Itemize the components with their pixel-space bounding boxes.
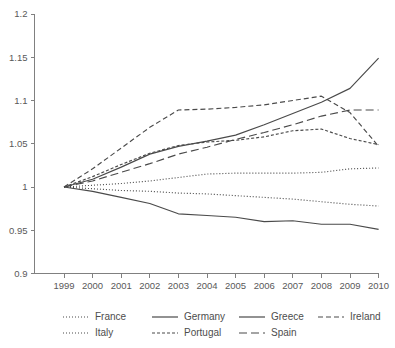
- y-tick-label: 0.9: [14, 268, 27, 279]
- series-line-spain: [64, 110, 379, 187]
- series-line-greece: [64, 58, 379, 187]
- legend-label-france: France: [95, 311, 127, 322]
- chart-legend: FranceGermanyGreeceIrelandItalyPortugalS…: [63, 311, 381, 338]
- x-tick-label: 2007: [282, 280, 303, 291]
- chart-svg: 0.90.9511.051.11.151.2 19992000200120022…: [0, 0, 395, 348]
- legend-label-ireland: Ireland: [350, 311, 381, 322]
- x-tick-label: 2001: [111, 280, 132, 291]
- x-tick-label: 2004: [196, 280, 217, 291]
- y-tick-label: 1.05: [9, 138, 28, 149]
- x-tick-label: 2009: [339, 280, 360, 291]
- y-tick-label: 1: [22, 181, 27, 192]
- x-tick-label: 2003: [168, 280, 189, 291]
- x-tick-label: 1999: [53, 280, 74, 291]
- y-tick-label: 1.2: [14, 8, 27, 19]
- legend-label-italy: Italy: [95, 327, 113, 338]
- series-line-germany: [64, 187, 379, 229]
- x-tick-label: 2010: [368, 280, 389, 291]
- line-chart: 0.90.9511.051.11.151.2 19992000200120022…: [0, 0, 395, 348]
- y-tick-label: 1.1: [14, 95, 27, 106]
- x-tick-label: 2000: [82, 280, 103, 291]
- y-tick-label: 0.95: [9, 225, 28, 236]
- x-tick-label: 2006: [254, 280, 275, 291]
- series-line-ireland: [64, 96, 379, 187]
- x-tick-label: 2005: [225, 280, 246, 291]
- legend-label-germany: Germany: [184, 311, 225, 322]
- legend-label-spain: Spain: [271, 327, 297, 338]
- y-axis: 0.90.9511.051.11.151.2: [9, 8, 35, 279]
- series-lines: [64, 58, 379, 229]
- y-tick-label: 1.15: [9, 52, 28, 63]
- x-tick-label: 2002: [139, 280, 160, 291]
- legend-label-portugal: Portugal: [184, 327, 221, 338]
- series-line-italy: [64, 187, 379, 206]
- x-axis: 1999200020012002200320042005200620072008…: [35, 274, 390, 291]
- x-tick-label: 2008: [311, 280, 332, 291]
- legend-label-greece: Greece: [271, 311, 304, 322]
